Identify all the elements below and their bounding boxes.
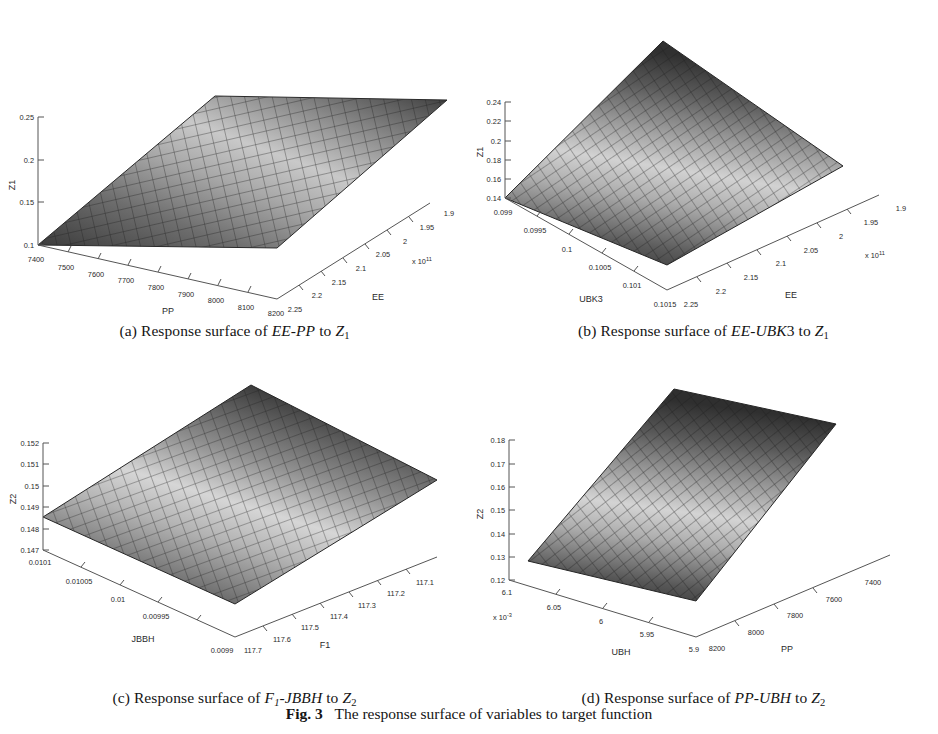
x-tick-a-0: 7400: [28, 255, 44, 264]
subcaption-a-target-sub: 1: [344, 330, 349, 341]
y-tick-c-6: 117.1: [416, 578, 434, 587]
x-tick-d-0: 6.1: [502, 588, 512, 597]
z-tick-a-0: 0.1: [24, 241, 34, 250]
x-tick-a-4: 7800: [148, 283, 164, 292]
subcaption-c-mid: to: [322, 689, 342, 706]
subcaption-b-vars: EE-UBK: [731, 322, 787, 339]
z-tick-d-5: 0.17: [491, 460, 505, 469]
subcaption-b-target-sub: 1: [824, 330, 829, 341]
plot-b: 0.14 0.16 0.18 0.2 0.22 0.24 Z1 0.099: [469, 0, 938, 330]
y-exponent-sup-a: 11: [426, 256, 432, 262]
subcaption-b: (b) Response surface of EE-UBK3 to Z1: [469, 322, 938, 341]
z-tick-c-3: 0.15: [25, 482, 39, 491]
x-axis-label-c: JBBH: [131, 634, 154, 644]
y-tick-b-5: 2: [839, 232, 843, 241]
y-exponent-b: x 10: [865, 251, 879, 260]
x-axis-label-b: UBK3: [579, 294, 603, 304]
surface-b: [505, 41, 843, 265]
figure-response-surfaces: 0.1 0.15 0.2 0.25 Z1 7400: [0, 0, 938, 734]
z-axis-label-c: Z2: [8, 494, 18, 505]
x-tick-b-2: 0.1: [562, 245, 572, 254]
subcaption-a-mid: to: [315, 322, 335, 339]
svg-text:x 10-3: x 10-3: [493, 612, 512, 622]
y-tick-c-1: 117.6: [273, 635, 291, 644]
z-tick-a-3: 0.25: [20, 113, 34, 122]
subcaption-a-vars: EE-PP: [272, 322, 316, 339]
x-tick-c-0: 0.0101: [29, 558, 52, 567]
x-tick-b-4: 0.101: [623, 281, 642, 290]
svg-text:x 1011: x 1011: [865, 250, 885, 260]
y-axis-label-b: EE: [785, 290, 797, 300]
x-tick-d-2: 6: [599, 617, 603, 626]
y-tick-b-4: 2.05: [804, 246, 818, 255]
surface-a: [38, 96, 447, 248]
y-tick-a-7: 1.9: [444, 209, 454, 218]
figure-caption: Fig. 3 The response surface of variables…: [0, 705, 938, 723]
y-tick-a-5: 2: [403, 237, 407, 246]
panel-a: 0.1 0.15 0.2 0.25 Z1 7400: [0, 0, 469, 367]
z-tick-b-3: 0.2: [491, 137, 501, 146]
z-tick-c-4: 0.151: [21, 460, 40, 469]
z-axis-d: 0.12 0.13 0.14 0.15 0.16 0.17 0.18 Z2: [475, 436, 515, 585]
x-tick-b-3: 0.1005: [589, 263, 612, 272]
x-tick-d-4: 5.9: [689, 645, 699, 654]
y-exponent-sup-b: 11: [879, 250, 885, 256]
z-axis-a: 0.1 0.15 0.2 0.25 Z1: [7, 113, 44, 250]
y-exponent-a: x 10: [412, 257, 426, 266]
z-tick-b-5: 0.24: [487, 98, 501, 107]
x-axis-exponent-d: x 10-3: [493, 612, 512, 622]
x-tick-b-0: 0.099: [494, 208, 513, 217]
x-tick-a-1: 7500: [58, 263, 74, 272]
y-tick-c-3: 117.4: [330, 612, 348, 621]
y-axis-label-c: F1: [320, 640, 331, 650]
panel-c: 0.147 0.148 0.149 0.15 0.151 0.152 Z2 0.…: [0, 367, 469, 734]
figure-caption-text: The response surface of variables to tar…: [334, 705, 652, 722]
subcaption-a-target: Z: [335, 322, 344, 339]
y-axis-label-a: EE: [372, 292, 384, 302]
y-tick-c-2: 117.5: [301, 623, 319, 632]
x-tick-d-1: 6.05: [547, 603, 561, 612]
y-axis-exponent-a: x 1011: [412, 256, 432, 266]
y-tick-a-6: 1.95: [420, 223, 434, 232]
z-tick-b-0: 0.14: [487, 194, 501, 203]
x-exponent-d: x 10: [493, 613, 507, 622]
subcaption-d-target: Z: [811, 689, 820, 706]
y-tick-c-0: 117.7: [244, 646, 262, 655]
subcaption-c-target: Z: [342, 689, 351, 706]
subcaption-d-vars: PP-UBH: [735, 689, 792, 706]
subcaption-a-prefix: (a) Response surface of: [119, 322, 271, 339]
z-axis-label-d: Z2: [475, 509, 485, 520]
z-tick-a-2: 0.2: [24, 156, 34, 165]
x-tick-d-3: 5.95: [640, 630, 654, 639]
y-axis-exponent-b: x 1011: [865, 250, 885, 260]
z-tick-b-2: 0.18: [487, 156, 501, 165]
subcaption-d-mid: to: [791, 689, 811, 706]
panel-d: 0.12 0.13 0.14 0.15 0.16 0.17 0.18 Z2 6.…: [469, 367, 938, 734]
x-tick-a-7: 8100: [238, 303, 254, 312]
x-tick-a-3: 7700: [118, 276, 134, 285]
y-tick-c-4: 117.3: [358, 601, 376, 610]
subcaption-a: (a) Response surface of EE-PP to Z1: [0, 322, 469, 341]
x-axis-label-d: UBH: [611, 647, 630, 657]
subcaption-b-target: Z: [815, 322, 824, 339]
x-tick-a-2: 7600: [88, 270, 104, 279]
subcaption-c-prefix: (c) Response surface of: [112, 689, 264, 706]
y-tick-d-3: 7600: [826, 595, 842, 604]
z-axis-b: 0.14 0.16 0.18 0.2 0.22 0.24 Z1: [475, 98, 511, 203]
y-tick-a-0: 2.25: [288, 305, 302, 314]
svg-text:x 1011: x 1011: [412, 256, 432, 266]
y-tick-b-0: 2.25: [684, 300, 698, 309]
x-tick-a-6: 8000: [208, 296, 224, 305]
y-tick-b-2: 2.15: [744, 273, 758, 282]
y-tick-c-5: 117.2: [387, 589, 405, 598]
surface-c: [43, 385, 437, 604]
x-tick-c-4: 0.0099: [211, 646, 234, 655]
z-tick-d-2: 0.14: [491, 530, 505, 539]
y-tick-d-0: 8200: [709, 644, 725, 653]
subcaption-c-vars: F: [265, 689, 275, 706]
y-tick-d-2: 7800: [787, 611, 803, 620]
x-tick-a-8: 8200: [268, 309, 284, 318]
y-tick-a-1: 2.2: [312, 291, 322, 300]
z-axis-label-b: Z1: [475, 147, 485, 158]
subcaption-c-vars-tail: -JBBH: [280, 689, 323, 706]
